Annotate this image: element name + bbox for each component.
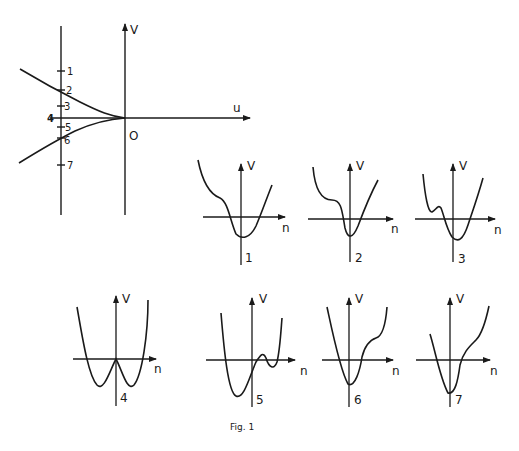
plot-1-v-label: V	[247, 159, 256, 173]
plot-5-v-label: V	[259, 292, 268, 306]
plot-7-id: 7	[455, 393, 463, 407]
plot-5-n-label: n	[300, 364, 308, 378]
figure-canvas: V u O 1 2 3 4 5 6 7 V n 1 V n 2	[0, 0, 519, 451]
plot-3-v-label: V	[459, 159, 468, 173]
figure-caption: Fig. 1	[230, 422, 254, 432]
tick-label-5: 5	[65, 122, 71, 133]
plot-4-v-label: V	[122, 292, 131, 306]
origin-label: O	[129, 129, 138, 143]
plot-6-n-label: n	[392, 364, 400, 378]
plot-1-n-label: n	[282, 221, 290, 235]
tick-label-1: 1	[67, 66, 73, 77]
main-plot-labels: V u O 1 2 3 4 5 6 7	[47, 23, 241, 171]
tick-label-2: 2	[66, 85, 72, 96]
plot-2-n-label: n	[391, 222, 399, 236]
plot-7-n-label: n	[490, 364, 498, 378]
cusp-lower-branch	[19, 118, 125, 163]
u-axis-label: u	[233, 101, 241, 115]
potential-plot-7: V n 7	[416, 292, 498, 407]
potential-plot-4: V n 4	[73, 292, 162, 406]
potential-plot-3: V n 3	[415, 159, 502, 266]
plot-1-id: 1	[245, 251, 253, 265]
potential-plot-2: V n 2	[308, 159, 399, 265]
plot-3-id: 3	[458, 252, 466, 266]
potential-plot-6: V n 6	[322, 292, 400, 407]
plot-6-v-label: V	[355, 292, 364, 306]
plot-5-id: 5	[256, 393, 264, 407]
v-axis-label: V	[130, 23, 139, 37]
tick-label-7: 7	[67, 160, 73, 171]
plot-4-n-label: n	[154, 362, 162, 376]
plot-7-v-label: V	[456, 292, 465, 306]
plot-6-id: 6	[354, 393, 362, 407]
potential-plot-5: V n 5	[206, 292, 308, 407]
tick-label-6: 6	[64, 135, 70, 146]
potential-plot-1: V n 1	[198, 159, 290, 265]
plot-4-id: 4	[120, 391, 128, 405]
plot-2-id: 2	[355, 251, 363, 265]
tick-label-3: 3	[64, 101, 70, 112]
tick-label-4: 4	[47, 113, 54, 124]
plot-3-n-label: n	[494, 223, 502, 237]
plot-2-v-label: V	[356, 159, 365, 173]
